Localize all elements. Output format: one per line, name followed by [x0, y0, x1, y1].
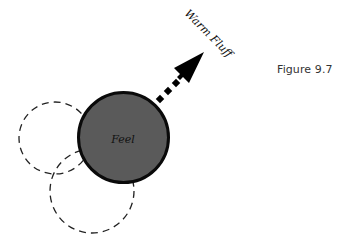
arrow-head-icon [174, 52, 204, 83]
arrow-shaft [156, 79, 180, 103]
feel-label: Feel [110, 133, 135, 146]
diagram-canvas: Feel Warm Fluff [0, 0, 347, 243]
figure-caption: Figure 9.7 [277, 63, 333, 76]
warm-fluff-label: Warm Fluff [182, 7, 237, 62]
